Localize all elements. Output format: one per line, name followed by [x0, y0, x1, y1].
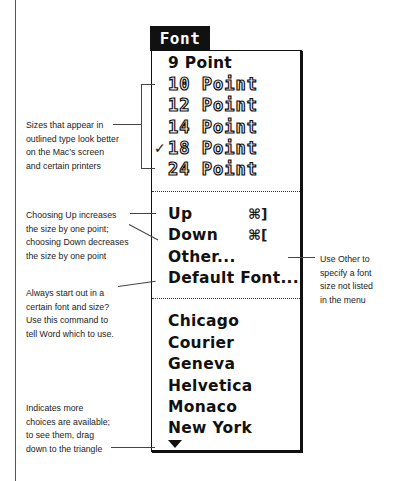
- annotation-default-font: Always start out in a certain font and s…: [26, 286, 114, 340]
- menu-item-label: New York: [168, 419, 252, 437]
- menu-item-24-point[interactable]: 24 Point: [168, 159, 258, 179]
- scroll-down-triangle-icon[interactable]: [168, 440, 182, 448]
- annotation-other: Use Other to specify a font size not lis…: [320, 252, 373, 306]
- leader-line: [130, 213, 156, 214]
- menu-item-up[interactable]: Up: [168, 204, 192, 224]
- menu-item-14-point[interactable]: 14 Point: [168, 117, 258, 137]
- shortcut-up: ⌘]: [248, 204, 267, 224]
- menu-item-18-point[interactable]: ✓ 18 Point: [168, 138, 258, 158]
- menu-item-label: Up: [168, 205, 192, 223]
- menu-item-chicago[interactable]: Chicago: [168, 311, 239, 331]
- menu-item-courier[interactable]: Courier: [168, 333, 234, 353]
- leader-line: [113, 124, 141, 125]
- menu-item-label: 10 Point: [168, 74, 258, 94]
- bracket-tick: [141, 168, 155, 169]
- menu-divider: [152, 298, 300, 299]
- menu-item-geneva[interactable]: Geneva: [168, 354, 235, 374]
- leader-line: [111, 447, 155, 448]
- font-menu-title[interactable]: Font: [150, 26, 210, 51]
- bracket-tick: [141, 84, 155, 85]
- menu-item-label: Courier: [168, 334, 234, 352]
- menu-item-down[interactable]: Down: [168, 225, 218, 245]
- annotation-up-down: Choosing Up increases the size by one po…: [26, 208, 129, 262]
- annotation-more-choices: Indicates more choices are available; to…: [26, 401, 110, 455]
- checkmark-icon: ✓: [154, 138, 167, 158]
- menu-item-other[interactable]: Other...: [168, 247, 236, 267]
- menu-item-label: Other...: [168, 248, 236, 266]
- menu-item-label: Default Font...: [168, 269, 299, 287]
- menu-item-12-point[interactable]: 12 Point: [168, 95, 258, 115]
- bracket-line: [141, 84, 142, 169]
- menu-item-new-york[interactable]: New York: [168, 418, 252, 438]
- menu-item-9-point[interactable]: 9 Point: [168, 53, 232, 73]
- menu-item-default-font[interactable]: Default Font...: [168, 268, 299, 288]
- annotation-outlined-sizes: Sizes that appear in outlined type look …: [26, 118, 119, 172]
- page-margin-line: [15, 0, 16, 481]
- menu-item-label: Down: [168, 226, 218, 244]
- menu-item-label: Geneva: [168, 355, 235, 373]
- menu-item-helvetica[interactable]: Helvetica: [168, 376, 252, 396]
- menu-item-label: Chicago: [168, 312, 239, 330]
- menu-item-monaco[interactable]: Monaco: [168, 397, 237, 417]
- menu-item-label: Monaco: [168, 398, 237, 416]
- menu-item-label: Helvetica: [168, 377, 252, 395]
- font-menu-dropdown: 9 Point 10 Point 12 Point 14 Point ✓ 18 …: [151, 50, 302, 452]
- menu-item-label: 12 Point: [168, 95, 258, 115]
- menu-item-label: 9 Point: [168, 54, 232, 72]
- menu-item-label: 18 Point: [168, 138, 258, 158]
- menu-divider: [152, 191, 300, 192]
- menu-item-label: 14 Point: [168, 117, 258, 137]
- menu-item-label: 24 Point: [168, 159, 258, 179]
- menu-item-10-point[interactable]: 10 Point: [168, 74, 258, 94]
- leader-line: [288, 257, 315, 258]
- shortcut-down: ⌘[: [248, 225, 267, 245]
